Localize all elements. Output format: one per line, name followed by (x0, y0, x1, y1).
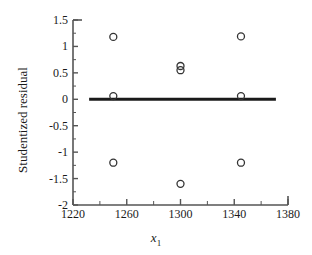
x-axis-tick-labels: 12201260130013401380 (0, 207, 312, 227)
data-point-0-3[interactable] (177, 67, 184, 74)
x-tick-label-4: 1380 (258, 207, 312, 222)
data-point-0-0[interactable] (110, 33, 117, 40)
data-point-0-7[interactable] (237, 159, 244, 166)
data-point-0-8[interactable] (177, 180, 184, 187)
x-tick-label-1: 1260 (97, 207, 157, 222)
data-point-0-6[interactable] (110, 159, 117, 166)
x-tick-label-2: 1300 (151, 207, 211, 222)
x-axis-label-subscript: 1 (157, 238, 162, 248)
y-tick-label-0: 1.5 (24, 13, 68, 28)
y-axis-label: Studentized residual (15, 35, 31, 205)
scatter-plot-figure: 1.510.50-0.5-1-1.5-2 1220126013001340138… (0, 0, 312, 255)
x-tick-label-0: 1220 (43, 207, 103, 222)
x-tick-label-3: 1340 (204, 207, 264, 222)
data-point-0-1[interactable] (237, 33, 244, 40)
x-axis-label: x1 (0, 230, 312, 248)
